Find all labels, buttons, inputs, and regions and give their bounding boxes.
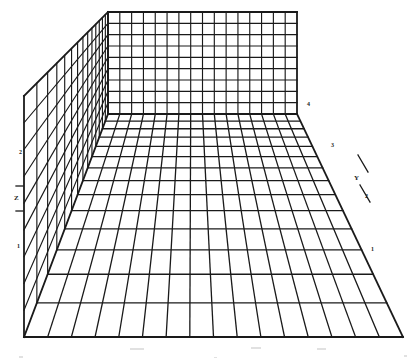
z-axis-name-label: Z [14, 195, 19, 202]
scan-speck [19, 356, 23, 358]
y-axis-tick-label-2: 2 [365, 193, 368, 199]
y-axis-name-label: Y [354, 175, 359, 182]
left-wall-grid [24, 15, 108, 311]
box-outline [24, 12, 403, 337]
y-axis-tick-label-3: 3 [331, 142, 334, 148]
scan-speck [214, 357, 217, 358]
scan-speck [404, 355, 407, 357]
z-axis-tick-label-1: 1 [17, 243, 20, 249]
scan-speck [317, 348, 326, 350]
y-axis-tick-label-1: 1 [371, 246, 374, 252]
axis-tick-marks [16, 155, 370, 211]
back-wall-grid [108, 12, 297, 114]
y-axis-tick-label-4: 4 [307, 101, 310, 107]
z-axis-tick-label-2: 2 [19, 149, 22, 155]
figure-root: 1 2 Z 1 2 3 4 Y [0, 0, 417, 363]
scan-speck [130, 348, 144, 350]
scan-speck [251, 347, 261, 349]
